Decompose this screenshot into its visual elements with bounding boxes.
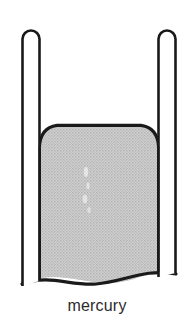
speckle-3 bbox=[83, 195, 88, 203]
mercury-diagram-svg bbox=[0, 0, 194, 323]
speckle-1 bbox=[84, 167, 88, 177]
mercury-fill-group bbox=[30, 115, 170, 295]
mercury-caption-label: mercury bbox=[0, 296, 194, 316]
mercury-halftone-texture bbox=[30, 115, 170, 295]
left-tube-wall bbox=[23, 31, 40, 287]
speckle-2 bbox=[86, 183, 89, 190]
mercury-meniscus-figure: mercury bbox=[0, 0, 194, 323]
right-tube-wall bbox=[159, 31, 176, 278]
speckle-4 bbox=[87, 207, 91, 213]
